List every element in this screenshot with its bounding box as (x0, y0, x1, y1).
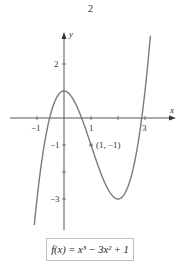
y-tick-label-2: 2 (54, 59, 59, 69)
x-axis: −1 1 3 x (10, 105, 176, 133)
x-axis-arrow-icon (169, 116, 176, 121)
y-tick-label-neg3: −3 (50, 194, 60, 204)
y-tick-label-neg1: −1 (50, 140, 60, 150)
y-axis-label: y (68, 29, 73, 39)
point-label: (1, −1) (96, 140, 121, 150)
function-graph: −1 1 3 x 2 −1 −3 y (1, −1) (0, 0, 181, 272)
x-tick-label-1: 1 (89, 123, 94, 133)
formula-text: f(x) = x³ − 3x² + 1 (51, 244, 129, 255)
formula-box: f(x) = x³ − 3x² + 1 (46, 238, 134, 261)
y-axis-arrow-icon (62, 32, 67, 39)
x-axis-label: x (169, 105, 174, 115)
x-tick-label-3: 3 (142, 123, 147, 133)
y-axis: 2 −1 −3 y (50, 29, 73, 230)
x-tick-label-neg1: −1 (31, 123, 41, 133)
point-marker (89, 143, 93, 147)
